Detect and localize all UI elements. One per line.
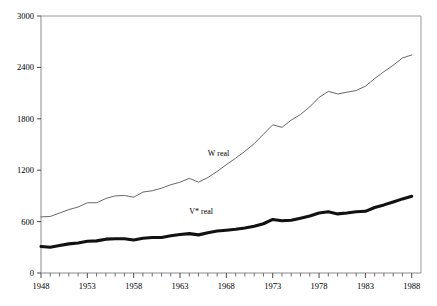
- series-label-2: V* real: [189, 207, 214, 216]
- x-tick-label: 1968: [218, 281, 235, 291]
- y-tick-label: 1800: [17, 114, 34, 124]
- y-tick-label: 600: [21, 217, 34, 227]
- chart-container: 06001200180024003000 1948195319581963196…: [0, 0, 437, 306]
- x-axis-labels: 194819531958196319681973197819831988: [33, 281, 421, 291]
- y-tick-label: 2400: [17, 62, 34, 72]
- x-tick-label: 1988: [403, 281, 420, 291]
- x-tick-label: 1983: [357, 281, 374, 291]
- x-tick-label: 1948: [33, 281, 50, 291]
- y-tick-label: 0: [30, 268, 34, 278]
- x-tick-label: 1953: [79, 281, 96, 291]
- y-tick-label: 1200: [17, 165, 34, 175]
- line-chart: 06001200180024003000 1948195319581963196…: [0, 0, 437, 306]
- series-label-1: W real: [208, 149, 230, 158]
- x-tick-label: 1973: [264, 281, 281, 291]
- x-tick-label: 1963: [172, 281, 189, 291]
- y-tick-label: 3000: [17, 11, 34, 21]
- x-tick-label: 1958: [125, 281, 142, 291]
- x-tick-label: 1978: [311, 281, 328, 291]
